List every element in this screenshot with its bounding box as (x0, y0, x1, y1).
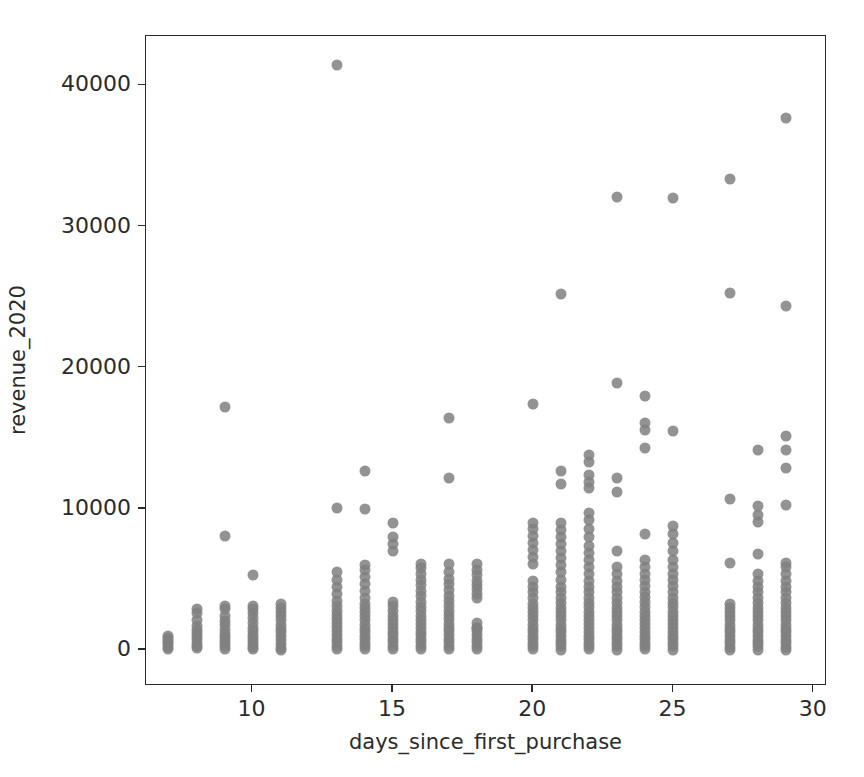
scatter-point (444, 412, 455, 423)
x-tick-label: 30 (799, 698, 827, 720)
y-tick-label: 30000 (61, 215, 138, 237)
scatter-point (780, 557, 791, 568)
scatter-point (387, 518, 398, 529)
scatter-point (612, 472, 623, 483)
scatter-point (163, 631, 174, 642)
scatter-point (528, 575, 539, 586)
scatter-point (668, 193, 679, 204)
scatter-point (780, 300, 791, 311)
x-tick-label: 15 (378, 698, 406, 720)
scatter-point (387, 532, 398, 543)
scatter-points-layer (146, 36, 825, 684)
scatter-point (752, 444, 763, 455)
scatter-point (752, 568, 763, 579)
scatter-point (640, 391, 651, 402)
plot-axes-frame (145, 35, 826, 685)
scatter-point (275, 599, 286, 610)
x-tick-mark (391, 685, 392, 692)
x-axis-label: days_since_first_purchase (145, 730, 826, 754)
x-tick: 10 (238, 685, 266, 720)
scatter-point (724, 557, 735, 568)
scatter-point (612, 378, 623, 389)
scatter-point (640, 417, 651, 428)
x-tick-mark (251, 685, 252, 692)
scatter-point (331, 503, 342, 514)
scatter-point (472, 559, 483, 570)
scatter-point (612, 546, 623, 557)
x-tick: 30 (799, 685, 827, 720)
scatter-point (668, 426, 679, 437)
scatter-point (780, 463, 791, 474)
scatter-point (191, 604, 202, 615)
scatter-point (752, 501, 763, 512)
y-tick: 10000 (61, 498, 145, 518)
y-tick-label: 10000 (61, 497, 138, 519)
y-tick: 20000 (61, 357, 145, 377)
x-tick-mark (812, 685, 813, 692)
scatter-point (415, 559, 426, 570)
scatter-point (640, 443, 651, 454)
y-tick: 0 (117, 639, 145, 659)
y-tick-mark (138, 84, 145, 85)
scatter-point (724, 494, 735, 505)
scatter-point (528, 518, 539, 529)
scatter-plot-figure: 010000200003000040000 1015202530 days_si… (0, 0, 864, 777)
scatter-point (556, 289, 567, 300)
scatter-point (331, 567, 342, 578)
scatter-point (780, 499, 791, 510)
scatter-point (780, 430, 791, 441)
scatter-point (247, 570, 258, 581)
scatter-point (584, 470, 595, 481)
scatter-point (612, 487, 623, 498)
scatter-point (780, 444, 791, 455)
scatter-point (612, 191, 623, 202)
x-tick-label: 25 (658, 698, 686, 720)
y-tick: 30000 (61, 216, 145, 236)
scatter-point (359, 503, 370, 514)
scatter-point (331, 59, 342, 70)
scatter-point (556, 518, 567, 529)
y-tick-label: 20000 (61, 356, 138, 378)
scatter-point (668, 520, 679, 531)
x-tick-label: 20 (518, 698, 546, 720)
scatter-point (387, 597, 398, 608)
scatter-point (472, 623, 483, 634)
x-tick-mark (672, 685, 673, 692)
scatter-point (444, 559, 455, 570)
x-tick-label: 10 (238, 698, 266, 720)
scatter-point (247, 601, 258, 612)
y-tick: 40000 (61, 74, 145, 94)
scatter-point (724, 287, 735, 298)
scatter-point (528, 399, 539, 410)
y-tick-mark (138, 225, 145, 226)
x-tick-mark (531, 685, 532, 692)
x-tick: 25 (658, 685, 686, 720)
x-tick: 20 (518, 685, 546, 720)
y-tick-mark (138, 507, 145, 508)
scatter-point (219, 401, 230, 412)
scatter-point (219, 600, 230, 611)
scatter-point (640, 529, 651, 540)
y-axis-label: revenue_2020 (6, 285, 30, 435)
y-tick-mark (138, 648, 145, 649)
scatter-point (219, 531, 230, 542)
scatter-point (640, 554, 651, 565)
scatter-point (780, 112, 791, 123)
y-tick-label: 0 (117, 638, 138, 660)
y-tick-mark (138, 366, 145, 367)
scatter-point (724, 173, 735, 184)
scatter-point (584, 450, 595, 461)
scatter-point (556, 465, 567, 476)
scatter-point (359, 465, 370, 476)
scatter-point (556, 478, 567, 489)
y-tick-label: 40000 (61, 73, 138, 95)
scatter-point (584, 508, 595, 519)
scatter-point (752, 549, 763, 560)
scatter-point (444, 472, 455, 483)
scatter-point (612, 561, 623, 572)
scatter-point (724, 598, 735, 609)
x-tick: 15 (378, 685, 406, 720)
scatter-point (359, 560, 370, 571)
